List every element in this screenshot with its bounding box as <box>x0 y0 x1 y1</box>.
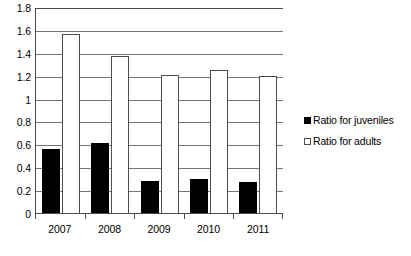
legend-item-adults: Ratio for adults <box>304 131 411 152</box>
legend-swatch-filled-square-icon <box>304 117 311 124</box>
bar-group-2007 <box>36 8 85 213</box>
x-tick-label: 2009 <box>134 222 184 238</box>
x-axis-tick <box>85 214 135 220</box>
y-axis-tick-labels: 1.8 1.6 1.4 1.2 1 0.8 0.6 0.4 0.2 0 <box>0 0 31 256</box>
bar-adults-2007 <box>62 34 80 213</box>
x-tick-label: 2007 <box>35 222 85 238</box>
chart-legend: Ratio for juveniles Ratio for adults <box>304 110 411 152</box>
legend-swatch-hollow-square-icon <box>304 138 311 145</box>
x-tick-label: 2008 <box>85 222 135 238</box>
y-tick-label: 0.2 <box>0 186 31 196</box>
y-tick-label: 0 <box>0 209 31 219</box>
y-tick-label: 0.4 <box>0 163 31 173</box>
x-axis-tick <box>233 214 283 220</box>
bar-groups <box>36 8 283 213</box>
y-tick-label: 1.6 <box>0 26 31 36</box>
y-tick-label: 1.2 <box>0 72 31 82</box>
y-tick-label: 1.4 <box>0 49 31 59</box>
legend-item-juveniles: Ratio for juveniles <box>304 110 411 131</box>
y-tick-label: 1.8 <box>0 3 31 13</box>
bar-adults-2008 <box>111 56 129 213</box>
bar-adults-2009 <box>161 75 179 213</box>
x-axis-tick <box>184 214 234 220</box>
bar-juveniles-2010 <box>190 179 208 213</box>
bar-chart: 1.8 1.6 1.4 1.2 1 0.8 0.6 0.4 0.2 0 2007… <box>0 0 411 256</box>
x-tick-label: 2011 <box>233 222 283 238</box>
y-tick-label: 0.8 <box>0 117 31 127</box>
x-axis-ticks <box>35 214 283 220</box>
bar-juveniles-2009 <box>141 181 159 213</box>
bar-group-2008 <box>85 8 134 213</box>
bar-group-2009 <box>135 8 184 213</box>
y-tick-label: 1 <box>0 95 31 105</box>
bar-adults-2011 <box>259 76 277 213</box>
x-axis-tick-labels: 20072008200920102011 <box>35 222 283 238</box>
bar-group-2010 <box>184 8 233 213</box>
legend-label: Ratio for juveniles <box>313 115 394 126</box>
plot-area <box>35 8 283 214</box>
bar-juveniles-2007 <box>42 149 60 213</box>
legend-label: Ratio for adults <box>313 136 381 147</box>
bar-juveniles-2008 <box>91 143 109 213</box>
y-tick-label: 0.6 <box>0 140 31 150</box>
bar-adults-2010 <box>210 70 228 213</box>
x-tick-label: 2010 <box>184 222 234 238</box>
x-axis-tick <box>35 214 85 220</box>
bar-group-2011 <box>234 8 283 213</box>
x-axis-tick <box>134 214 184 220</box>
bar-juveniles-2011 <box>239 182 257 213</box>
